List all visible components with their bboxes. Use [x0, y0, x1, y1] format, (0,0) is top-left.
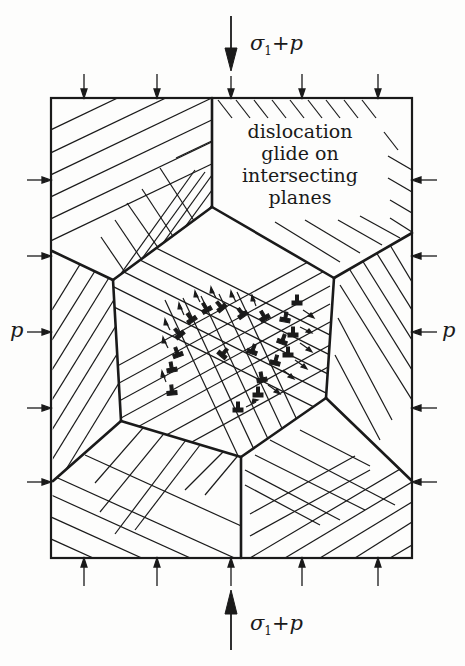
- bottom-load-arrow: [225, 590, 237, 650]
- dislocation-symbol: [199, 301, 213, 315]
- annotation-line-4: planes: [269, 186, 332, 208]
- right-pressure-label: p: [442, 318, 455, 342]
- annotation-line-2: glide on: [261, 142, 338, 164]
- grain-bottom-right: [245, 430, 412, 558]
- dislocation-symbol: [217, 346, 231, 360]
- dislocation-symbol: [292, 295, 302, 305]
- dislocation-glide-diagram: σ1+p σ1+p p p dislocation glide on inter: [0, 0, 465, 666]
- dislocation-symbol: [253, 387, 263, 397]
- annotation-dislocation-glide: dislocation glide on intersecting planes: [242, 120, 358, 208]
- dislocation-symbol: [171, 346, 184, 359]
- top-pressure-arrows: [81, 74, 381, 98]
- annotation-line-3: intersecting: [242, 164, 358, 186]
- annotation-line-1: dislocation: [248, 120, 353, 142]
- dislocation-symbol: [270, 354, 282, 366]
- dislocation-symbol: [166, 361, 178, 373]
- grain-left: [52, 240, 122, 476]
- left-pressure-arrows: [27, 177, 51, 485]
- dislocation-cluster: [161, 287, 314, 412]
- dislocation-symbol: [288, 327, 298, 337]
- top-load-arrow: [225, 16, 237, 71]
- bottom-pressure-arrows: [81, 558, 381, 586]
- grain-right: [335, 245, 412, 440]
- bottom-load-label: σ1+p: [250, 611, 303, 638]
- left-pressure-label: p: [10, 318, 23, 342]
- top-load-label: σ1+p: [250, 31, 303, 58]
- grain-top-left: [40, 30, 260, 290]
- dislocation-symbol: [166, 385, 177, 396]
- right-pressure-arrows: [412, 177, 437, 485]
- dislocation-symbol: [213, 299, 227, 313]
